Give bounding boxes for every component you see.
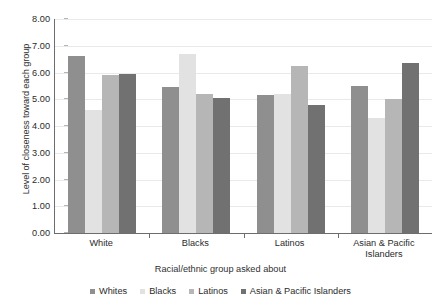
x-axis-category-label: White	[54, 238, 148, 260]
y-axis-tick-labels: 0.001.002.003.004.005.006.007.008.00	[14, 0, 50, 304]
x-axis-category-label: Latinos	[243, 238, 337, 260]
legend-swatch-icon	[241, 289, 246, 294]
x-axis-title: Racial/ethnic group asked about	[0, 264, 441, 274]
legend-label: Blacks	[149, 286, 176, 296]
bar[interactable]	[274, 94, 291, 233]
bar[interactable]	[402, 63, 419, 233]
bar[interactable]	[85, 110, 102, 233]
bar[interactable]	[119, 74, 136, 233]
x-axis-category-label: Asian & Pacific Islanders	[337, 238, 431, 260]
y-axis-tick-label: 5.00	[14, 94, 50, 104]
bar[interactable]	[162, 87, 179, 233]
bar-chart-figure: Level of closeness toward each group 0.0…	[0, 0, 441, 304]
legend-label: Latinos	[198, 286, 228, 296]
bar[interactable]	[351, 86, 368, 233]
legend-swatch-icon	[140, 289, 145, 294]
y-axis-tick-label: 2.00	[14, 175, 50, 185]
y-axis-tick-label: 7.00	[14, 41, 50, 51]
chart-legend: WhitesBlacksLatinosAsian & Pacific Islan…	[0, 286, 441, 296]
bar-group	[244, 19, 338, 233]
plot-area	[54, 19, 432, 234]
bar[interactable]	[102, 75, 119, 233]
bar-group	[55, 19, 149, 233]
legend-item[interactable]: Whites	[90, 286, 127, 296]
legend-item[interactable]: Latinos	[189, 286, 228, 296]
legend-swatch-icon	[189, 289, 194, 294]
bar-group	[338, 19, 432, 233]
legend-item[interactable]: Blacks	[140, 286, 176, 296]
y-axis-tick-label: 1.00	[14, 201, 50, 211]
legend-label: Whites	[99, 286, 127, 296]
bar[interactable]	[385, 99, 402, 233]
bar[interactable]	[179, 54, 196, 233]
bar[interactable]	[213, 98, 230, 233]
bar-groups	[55, 19, 432, 233]
y-axis-tick-label: 0.00	[14, 228, 50, 238]
bar-group	[149, 19, 243, 233]
bar[interactable]	[291, 66, 308, 233]
bar[interactable]	[196, 94, 213, 233]
y-axis-tick-label: 3.00	[14, 148, 50, 158]
y-axis-tick-label: 4.00	[14, 121, 50, 131]
bar[interactable]	[368, 118, 385, 233]
legend-item[interactable]: Asian & Pacific Islanders	[241, 286, 351, 296]
x-axis-category-labels: WhiteBlacksLatinosAsian & Pacific Island…	[54, 238, 431, 260]
y-axis-tick-label: 8.00	[14, 14, 50, 24]
legend-label: Asian & Pacific Islanders	[250, 286, 351, 296]
bar[interactable]	[257, 95, 274, 233]
bar[interactable]	[68, 56, 85, 233]
legend-swatch-icon	[90, 289, 95, 294]
y-axis-tick-label: 6.00	[14, 68, 50, 78]
bar[interactable]	[308, 105, 325, 233]
x-axis-category-label: Blacks	[148, 238, 242, 260]
